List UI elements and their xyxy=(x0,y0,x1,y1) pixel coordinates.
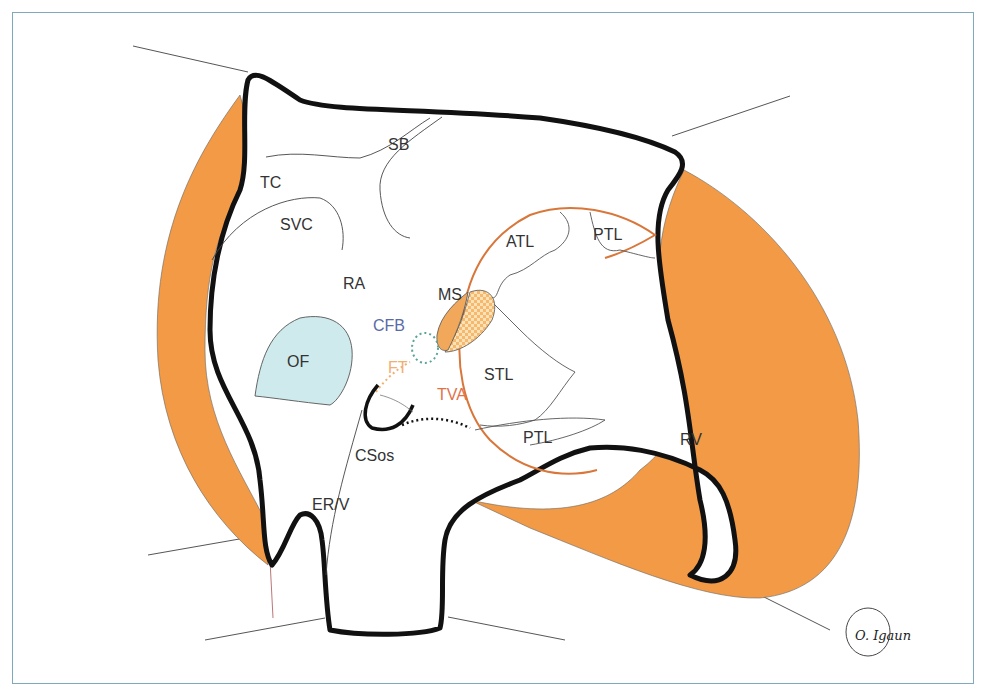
label-of: OF xyxy=(287,353,309,370)
label-csos: CSos xyxy=(355,447,394,464)
heart-diagram: SB TC SVC RA OF CFB FT MS TVA STL ATL PT… xyxy=(0,0,986,697)
label-cfb: CFB xyxy=(373,317,405,334)
label-ptl-lower: PTL xyxy=(523,429,552,446)
label-stl: STL xyxy=(484,366,513,383)
label-ft: FT xyxy=(388,359,408,376)
label-tc: TC xyxy=(260,174,281,191)
label-atl: ATL xyxy=(506,233,534,250)
label-rv: RV xyxy=(680,431,702,448)
signature: O. Igaun xyxy=(855,628,911,643)
label-svc: SVC xyxy=(280,216,313,233)
label-tva: TVA xyxy=(437,386,467,403)
label-ms: MS xyxy=(438,286,462,303)
label-erv: ER/V xyxy=(312,496,350,513)
label-sb: SB xyxy=(388,136,409,153)
label-ra: RA xyxy=(343,275,366,292)
label-ptl-upper: PTL xyxy=(593,226,622,243)
